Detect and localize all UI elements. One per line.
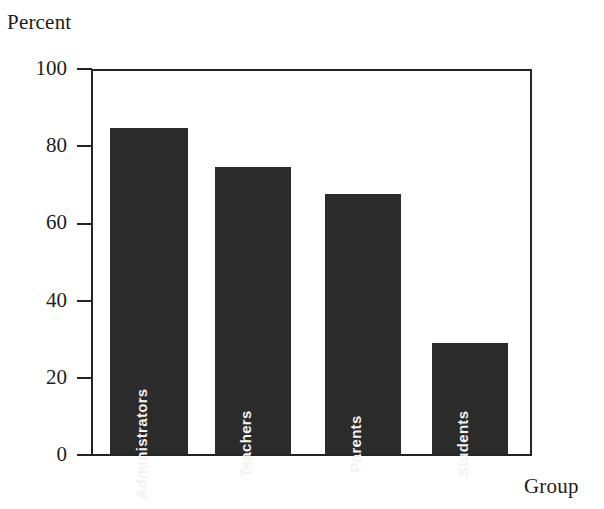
bar-label-parents: Parents — [348, 415, 363, 472]
y-tick-mark-100 — [77, 68, 92, 70]
y-tick-label-0: 0 — [57, 444, 68, 465]
bar-parents: Parents — [325, 194, 401, 454]
plot-area: Administrators Teachers Parents Students — [93, 71, 530, 454]
y-tick-mark-0 — [77, 454, 92, 456]
bar-chart: Percent 100 80 60 40 20 0 Administrators… — [0, 0, 604, 509]
x-axis-title: Group — [524, 476, 579, 497]
bar-administrators: Administrators — [110, 128, 188, 454]
plot-frame: Administrators Teachers Parents Students — [91, 69, 532, 456]
y-tick-mark-60 — [77, 223, 92, 225]
y-tick-label-80: 80 — [46, 135, 67, 156]
y-tick-label-20: 20 — [46, 367, 67, 388]
y-tick-mark-20 — [77, 377, 92, 379]
bar-students: Students — [432, 343, 508, 454]
bar-teachers: Teachers — [215, 167, 291, 454]
y-tick-label-40: 40 — [46, 290, 67, 311]
y-tick-mark-80 — [77, 145, 92, 147]
y-tick-mark-40 — [77, 300, 92, 302]
y-tick-label-60: 60 — [46, 212, 67, 233]
y-tick-label-100: 100 — [36, 58, 68, 79]
y-axis-title: Percent — [7, 12, 71, 33]
bar-label-administrators: Administrators — [134, 389, 149, 500]
bar-label-students: Students — [455, 411, 470, 478]
bar-label-teachers: Teachers — [238, 410, 253, 477]
